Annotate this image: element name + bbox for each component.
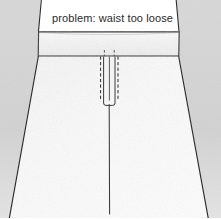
skirt-body [9, 56, 209, 219]
waistband [38, 32, 179, 56]
diagram-canvas: problem: waist too loose [0, 0, 221, 218]
caption-label: problem: waist too loose [52, 12, 173, 24]
skirt-diagram-svg: problem: waist too loose [0, 0, 221, 218]
